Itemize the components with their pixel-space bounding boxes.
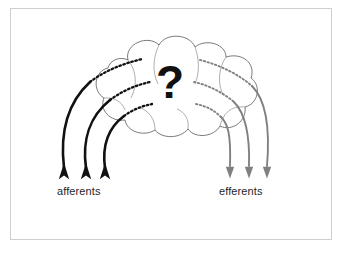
question-mark-symbol: ?	[148, 58, 192, 110]
afferent-arrowhead-1	[59, 163, 69, 179]
figure-root: ? afferents efferents	[0, 0, 345, 254]
diagram-canvas	[0, 0, 345, 254]
afferent-arrowhead-3	[100, 163, 110, 179]
label-efferents: efferents	[219, 185, 263, 197]
label-afferents: afferents	[57, 185, 101, 197]
efferent-arrowhead-1	[226, 167, 234, 179]
efferent-arrowhead-3	[263, 167, 271, 179]
afferent-arrowhead-2	[81, 163, 91, 179]
efferent-arrowhead-2	[245, 167, 253, 179]
